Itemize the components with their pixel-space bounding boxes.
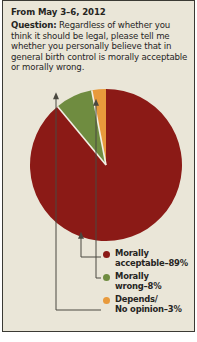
- leader-arrowhead: [53, 92, 59, 99]
- leader-line-morally-acceptable: [78, 232, 101, 257]
- leader-line-morally-wrong: [93, 99, 101, 278]
- pie-slice-morally-wrong: [58, 90, 106, 165]
- legend-label-line2: wrong–8%: [115, 282, 195, 292]
- legend-item-depends-no-opinion[interactable]: Depends/ No opinion–3%: [103, 295, 195, 315]
- legend-swatch-morally-acceptable: [103, 251, 110, 258]
- pie-slice-morally-acceptable: [30, 89, 182, 241]
- leader-arrowhead: [93, 99, 99, 106]
- pie-slice-depends-no-opinion: [92, 89, 106, 165]
- survey-question: Question: Regardless of whether you thin…: [11, 20, 189, 73]
- chart-header: From May 3–6, 2012 Question: Regardless …: [3, 1, 195, 73]
- survey-date: From May 3–6, 2012: [11, 7, 189, 18]
- chart-legend: Morally acceptable–89% Morally wrong–8% …: [103, 249, 195, 318]
- slice-separator: [92, 90, 106, 165]
- legend-label-line2: No opinion–3%: [115, 305, 195, 315]
- leader-line-depends-no-opinion: [53, 92, 101, 310]
- legend-swatch-morally-wrong: [103, 274, 110, 281]
- pie-slices: [30, 89, 182, 241]
- chart-figure: From May 3–6, 2012 Question: Regardless …: [2, 0, 195, 332]
- legend-item-morally-acceptable[interactable]: Morally acceptable–89%: [103, 249, 195, 269]
- question-label: Question:: [11, 20, 57, 30]
- legend-swatch-depends-no-opinion: [103, 297, 110, 304]
- legend-item-morally-wrong[interactable]: Morally wrong–8%: [103, 272, 195, 292]
- leader-arrowhead: [78, 232, 84, 239]
- leader-lines: [53, 92, 101, 310]
- slice-separator: [58, 106, 106, 165]
- legend-label-line2: acceptable–89%: [115, 259, 195, 269]
